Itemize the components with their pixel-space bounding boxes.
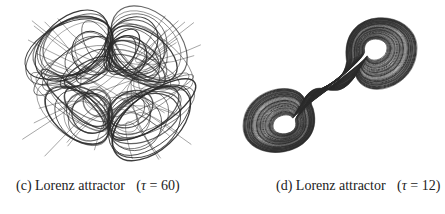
figure-caption-d: (d) Lorenz attractor (τ = 12) bbox=[276, 178, 440, 194]
caption-label: (c) bbox=[16, 178, 32, 193]
caption-parameter: (τ = 60) bbox=[136, 178, 179, 193]
lorenz-attractor-plot-tau-60 bbox=[0, 0, 222, 170]
lorenz-attractor-plot-tau-12 bbox=[223, 0, 445, 170]
caption-label: (d) bbox=[276, 178, 292, 193]
caption-title: Lorenz attractor bbox=[35, 178, 125, 193]
figure-caption-c: (c) Lorenz attractor (τ = 60) bbox=[16, 178, 180, 194]
caption-title: Lorenz attractor bbox=[296, 178, 386, 193]
caption-parameter: (τ = 12) bbox=[397, 178, 440, 193]
